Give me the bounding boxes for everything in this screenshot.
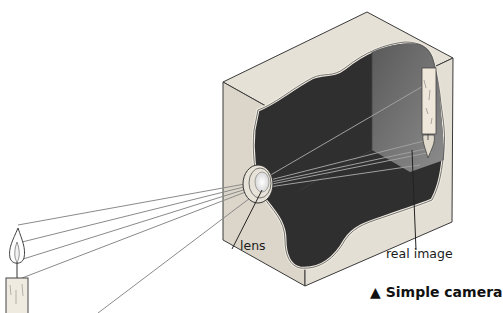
- object-candle: [6, 228, 28, 313]
- figure-caption: ▲ Simple camera: [370, 284, 503, 300]
- caption-text: Simple camera: [386, 284, 503, 300]
- lens-label: lens: [240, 238, 266, 253]
- incoming-rays: [18, 182, 258, 313]
- real-image-label: real image: [386, 246, 453, 261]
- triangle-marker-icon: ▲: [370, 284, 381, 300]
